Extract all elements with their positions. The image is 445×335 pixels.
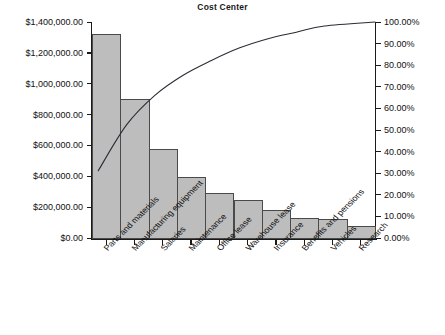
y-axis-left-tick-label: $1,000,000.00 xyxy=(0,79,83,88)
y-axis-right-tick-label: 90.00% xyxy=(384,39,415,48)
pareto-chart: Cost Center $0.00$200,000.00$400,000.00$… xyxy=(0,0,445,335)
y-axis-left-tick-label: $1,400,000.00 xyxy=(0,18,83,27)
y-axis-left-tick-label: $600,000.00 xyxy=(0,141,83,150)
y-axis-left-tick-label: $400,000.00 xyxy=(0,172,83,181)
y-axis-right-tick-label: 60.00% xyxy=(384,104,415,113)
chart-title: Cost Center xyxy=(0,2,445,12)
y-axis-right-tick xyxy=(376,194,381,195)
bar xyxy=(92,34,121,239)
y-axis-right-tick xyxy=(376,65,381,66)
y-axis-right-tick xyxy=(376,130,381,131)
y-axis-right-tick-label: 20.00% xyxy=(384,190,415,199)
y-axis-right-tick-label: 50.00% xyxy=(384,126,415,135)
y-axis-right-tick xyxy=(376,43,381,44)
y-axis-right-tick-label: 70.00% xyxy=(384,82,415,91)
y-axis-right-tick xyxy=(376,173,381,174)
y-axis-right-tick xyxy=(376,216,381,217)
y-axis-right-tick-label: 80.00% xyxy=(384,61,415,70)
y-axis-right-tick-label: 30.00% xyxy=(384,169,415,178)
y-axis-right-tick xyxy=(376,108,381,109)
y-axis-left-tick xyxy=(87,22,92,23)
y-axis-left-tick-label: $200,000.00 xyxy=(0,203,83,212)
y-axis-right-tick xyxy=(376,151,381,152)
y-axis-right-tick-label: 0.00% xyxy=(384,234,410,243)
y-axis-right-tick-label: 10.00% xyxy=(384,212,415,221)
y-axis-left-tick-label: $800,000.00 xyxy=(0,110,83,119)
y-axis-right-tick-label: 100.00% xyxy=(384,18,420,27)
y-axis-right-tick-label: 40.00% xyxy=(384,147,415,156)
y-axis-right-tick xyxy=(376,86,381,87)
y-axis-left-tick-label: $0.00 xyxy=(0,234,83,243)
y-axis-left-tick-label: $1,200,000.00 xyxy=(0,48,83,57)
y-axis-right-tick xyxy=(376,22,381,23)
